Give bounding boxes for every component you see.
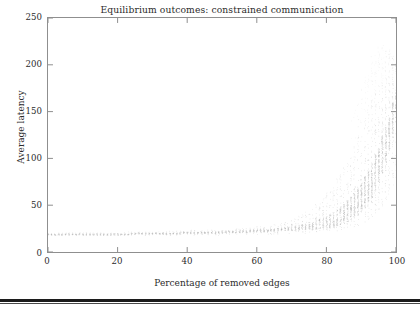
x-tick-label: 80 bbox=[307, 256, 347, 266]
figure-container: Equilibrium outcomes: constrained commun… bbox=[0, 0, 420, 314]
page-edge-rule-secondary bbox=[0, 303, 420, 304]
x-axis-label: Percentage of removed edges bbox=[47, 278, 397, 288]
x-tick-label: 20 bbox=[97, 256, 137, 266]
scatter-layer bbox=[48, 18, 396, 252]
y-axis-label: Average latency bbox=[16, 62, 26, 192]
y-tick-label: 50 bbox=[8, 200, 42, 210]
x-tick-label: 40 bbox=[167, 256, 207, 266]
y-tick-label: 250 bbox=[8, 12, 42, 22]
data-point-cloud bbox=[48, 45, 396, 236]
x-tick-label: 0 bbox=[27, 256, 67, 266]
plot-area bbox=[47, 17, 397, 253]
chart-title: Equilibrium outcomes: constrained commun… bbox=[47, 4, 397, 15]
page-edge-rule bbox=[0, 299, 420, 302]
x-tick-label: 100 bbox=[377, 256, 417, 266]
x-tick-label: 60 bbox=[237, 256, 277, 266]
